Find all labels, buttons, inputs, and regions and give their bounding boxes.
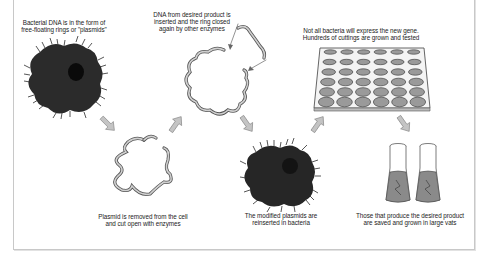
recombinant-plasmid-icon	[186, 24, 266, 114]
arrow-step2-to-3	[166, 113, 185, 134]
arrow-step1-to-2	[98, 114, 119, 135]
well-icon	[321, 78, 335, 86]
culture-vat-icon-1	[386, 144, 410, 203]
inserted-dna-icon	[238, 27, 265, 58]
well-icon	[357, 59, 370, 64]
well-icon	[374, 59, 387, 64]
well-icon	[355, 97, 371, 107]
well-icon	[408, 50, 420, 54]
well-icon	[391, 78, 405, 86]
arrow-step4-to-5	[308, 113, 327, 134]
arrow-step3-to-4	[237, 113, 256, 134]
pointer-line	[230, 24, 238, 46]
well-icon	[374, 69, 388, 75]
well-icon	[374, 78, 388, 86]
well-icon	[408, 59, 421, 64]
well-icon	[410, 97, 426, 107]
well-icon	[338, 78, 352, 86]
well-icon	[392, 88, 407, 97]
open-plasmid-icon	[115, 136, 171, 194]
diagram-graphics	[0, 0, 482, 255]
well-icon	[374, 88, 389, 97]
well-icon	[337, 97, 353, 107]
well-icon	[373, 97, 389, 107]
well-icon	[409, 78, 423, 86]
modified-bacterium-icon	[240, 138, 321, 212]
nucleus-icon	[68, 63, 84, 81]
nucleus-icon	[282, 158, 298, 174]
well-icon	[322, 69, 336, 75]
pointer-line	[252, 60, 266, 68]
culture-vat-icon-2	[416, 144, 440, 203]
well-icon	[320, 88, 335, 97]
arrow-step5-to-6	[394, 113, 413, 134]
well-icon	[356, 88, 371, 97]
well-icon	[341, 50, 353, 54]
well-icon	[323, 59, 336, 64]
well-icon	[391, 50, 403, 54]
culture-plate-icon	[314, 48, 430, 111]
well-icon	[340, 59, 353, 64]
well-icon	[374, 50, 386, 54]
well-icon	[358, 50, 370, 54]
well-icon	[318, 97, 334, 107]
well-icon	[410, 88, 425, 97]
well-icon	[391, 69, 405, 75]
well-icon	[409, 69, 423, 75]
well-icon	[357, 69, 371, 75]
well-icon	[339, 69, 353, 75]
well-icon	[391, 59, 404, 64]
well-icon	[324, 50, 336, 54]
bacterium-icon	[24, 36, 108, 119]
well-icon	[338, 88, 353, 97]
well-icon	[356, 78, 370, 86]
well-icon	[392, 97, 408, 107]
